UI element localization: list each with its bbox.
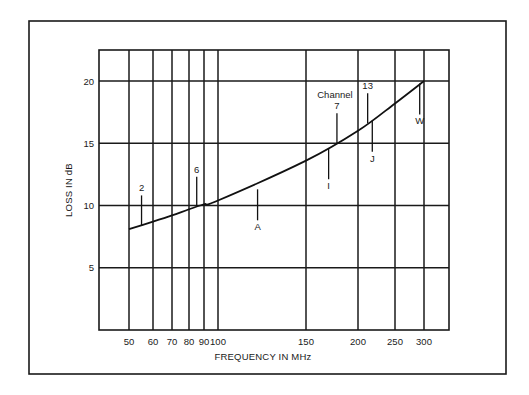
x-tick-80: 80 [184, 336, 195, 347]
x-tick-50: 50 [124, 336, 135, 347]
annotation-W: W [415, 83, 424, 126]
x-axis-label: FREQUENCY IN MHz [215, 351, 312, 362]
annotation-2: 2 [139, 182, 144, 225]
x-tick-150: 150 [298, 336, 314, 347]
y-tick-5: 5 [89, 262, 94, 273]
annotation-label: 7 [334, 100, 339, 111]
loss-vs-frequency-chart: 5060708090100150200250300 5101520 26AI7C… [0, 0, 529, 395]
annotation-label: I [327, 180, 330, 191]
annotation-label: 2 [139, 182, 144, 193]
x-tick-60: 60 [148, 336, 159, 347]
x-tick-90: 90 [199, 336, 210, 347]
annotation-J: J [370, 121, 375, 164]
annotation-label: A [254, 221, 261, 232]
y-axis-label: LOSS IN dB [63, 163, 74, 217]
y-tick-20: 20 [83, 76, 94, 87]
y-tick-15: 15 [83, 138, 94, 149]
x-tick-100: 100 [210, 336, 226, 347]
annotation-6: 6 [194, 164, 199, 207]
x-tick-70: 70 [167, 336, 178, 347]
annotation-prefix: Channel [317, 89, 352, 100]
outer-frame [29, 21, 506, 374]
annotation-7: 7Channel [317, 89, 352, 143]
x-tick-200: 200 [350, 336, 366, 347]
vertical-gridlines [129, 50, 424, 330]
annotation-13: 13 [362, 80, 373, 123]
annotation-label: 6 [194, 164, 199, 175]
annotation-A: A [254, 189, 261, 232]
loss-curve [129, 81, 424, 229]
annotation-label: J [370, 153, 375, 164]
y-tick-labels: 5101520 [83, 76, 94, 274]
x-tick-300: 300 [416, 336, 432, 347]
y-tick-10: 10 [83, 200, 94, 211]
annotation-label: W [415, 115, 424, 126]
horizontal-gridlines [99, 81, 449, 268]
plot-area [99, 50, 449, 330]
x-tick-250: 250 [387, 336, 403, 347]
annotation-I: I [327, 148, 330, 191]
channel-annotations: 26AI7Channel13JW [139, 80, 424, 232]
x-tick-labels: 5060708090100150200250300 [124, 336, 432, 347]
annotation-label: 13 [362, 80, 373, 91]
